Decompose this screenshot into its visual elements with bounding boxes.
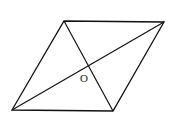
rhombus-diagram: O xyxy=(0,0,171,127)
diagonal-short xyxy=(64,21,113,111)
center-label-o: O xyxy=(80,72,88,84)
